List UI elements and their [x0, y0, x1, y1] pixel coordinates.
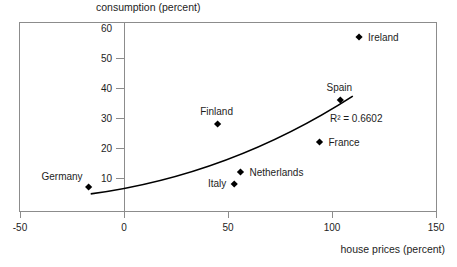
data-point-marker-ireland [355, 33, 362, 40]
y-axis-title: consumption (percent) [96, 2, 200, 14]
x-tick-label: 0 [121, 222, 127, 233]
y-tick-label: 20 [95, 143, 112, 154]
x-tick-label: 50 [222, 222, 233, 233]
r-squared-annotation: R² = 0.6602 [330, 113, 383, 124]
point-label-italy: Italy [208, 178, 226, 189]
data-point-marker-netherlands [237, 168, 244, 175]
x-tick-label: 150 [428, 222, 445, 233]
x-tick-label: 100 [324, 222, 341, 233]
x-axis-title: house prices (percent) [341, 244, 445, 256]
y-tick-label: 60 [95, 23, 112, 34]
point-label-ireland: Ireland [368, 32, 399, 43]
x-tick-label: -50 [13, 222, 27, 233]
point-label-finland: Finland [200, 106, 233, 117]
point-label-germany: Germany [42, 171, 83, 182]
y-tick-label: 40 [95, 83, 112, 94]
y-tick-label: 30 [95, 113, 112, 124]
scatter-chart: consumption (percent) house prices (perc… [0, 0, 457, 267]
y-tick-label: 50 [95, 53, 112, 64]
point-label-spain: Spain [327, 82, 353, 93]
data-point-marker-finland [214, 120, 221, 127]
data-point-marker-germany [85, 183, 92, 190]
point-label-france: France [329, 137, 360, 148]
data-point-marker-italy [231, 180, 238, 187]
data-point-marker-france [316, 138, 323, 145]
point-label-netherlands: Netherlands [249, 167, 303, 178]
y-tick-label: 10 [95, 173, 112, 184]
